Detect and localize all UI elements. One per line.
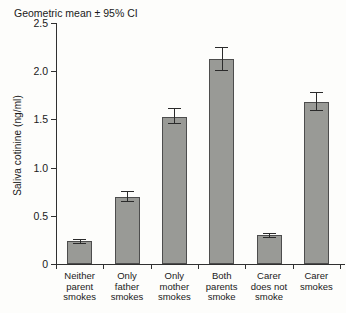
x-tick-mark: [245, 264, 246, 269]
bar: [257, 235, 282, 264]
error-bar-cap-upper: [215, 47, 228, 48]
x-category-label-line: smoke: [198, 292, 245, 303]
x-category-label-line: smokes: [56, 292, 103, 303]
error-bar-cap-upper: [263, 233, 276, 234]
error-bar-line: [316, 92, 317, 109]
x-category-label-line: smokes: [293, 282, 340, 293]
x-tick-mark: [198, 264, 199, 269]
y-tick-label: 0.5: [33, 210, 48, 222]
error-bar-cap-upper: [310, 92, 323, 93]
y-tick-label: 1.5: [33, 113, 48, 125]
x-category-label-line: Both: [198, 271, 245, 282]
error-bar-cap-upper: [121, 191, 134, 192]
plot-area: 00.51.01.52.02.5 NeitherparentsmokesOnly…: [56, 23, 340, 264]
x-tick-mark: [340, 264, 341, 269]
x-category-label-line: smoke: [245, 292, 292, 303]
error-bar-line: [174, 108, 175, 123]
y-tick-mark: [51, 119, 56, 120]
y-tick-label: 1.0: [33, 162, 48, 174]
x-tick-mark: [151, 264, 152, 269]
x-category-label-line: Only: [103, 271, 150, 282]
error-bar-cap-lower: [73, 243, 86, 244]
x-category-label: Carersmokes: [293, 271, 340, 292]
error-bar-cap-lower: [215, 70, 228, 71]
bar: [304, 102, 329, 264]
error-bar-cap-lower: [310, 110, 323, 111]
bar: [115, 197, 140, 264]
error-bar-cap-lower: [121, 201, 134, 202]
y-axis-line: [56, 23, 57, 264]
chart-figure: Saliva cotinine (ng/ml) 00.51.01.52.02.5…: [0, 0, 346, 313]
y-tick-label: 2.0: [33, 65, 48, 77]
x-category-label: Onlyfathersmokes: [103, 271, 150, 303]
error-bar-cap-upper: [168, 108, 181, 109]
error-bar-line: [127, 191, 128, 202]
error-bar-cap-lower: [263, 237, 276, 238]
x-category-label: Bothparentssmoke: [198, 271, 245, 303]
x-axis-line: [56, 264, 345, 265]
bar: [209, 59, 234, 264]
error-bar-line: [222, 47, 223, 70]
bar: [162, 117, 187, 264]
y-tick-mark: [51, 71, 56, 72]
x-category-label: Onlymothersmokes: [151, 271, 198, 303]
x-category-label-line: Carer: [245, 271, 292, 282]
y-tick-mark: [51, 216, 56, 217]
x-tick-mark: [103, 264, 104, 269]
chart-annotation: Geometric mean ± 95% CI: [14, 7, 138, 19]
y-tick-mark: [51, 23, 56, 24]
x-category-label-line: Carer: [293, 271, 340, 282]
x-category-label-line: Only: [151, 271, 198, 282]
bar: [67, 241, 92, 264]
x-category-label-line: smokes: [151, 292, 198, 303]
error-bar-cap-lower: [168, 123, 181, 124]
y-tick-label: 0: [42, 258, 48, 270]
error-bar-cap-upper: [73, 239, 86, 240]
y-tick-mark: [51, 168, 56, 169]
x-category-label: Carerdoes notsmoke: [245, 271, 292, 303]
x-tick-mark: [293, 264, 294, 269]
x-category-label-line: smokes: [103, 292, 150, 303]
x-category-label-line: Neither: [56, 271, 103, 282]
y-axis-title: Saliva cotinine (ng/ml): [12, 46, 23, 246]
x-tick-mark: [56, 264, 57, 269]
x-category-label: Neitherparentsmokes: [56, 271, 103, 303]
